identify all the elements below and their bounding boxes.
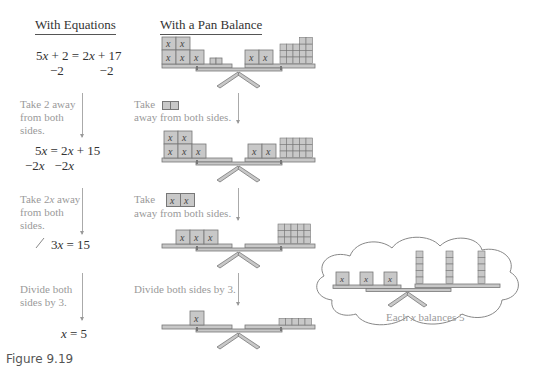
svg-text:x: x xyxy=(167,146,173,157)
balance-step-2: xx xxx xx xyxy=(162,131,315,182)
svg-text:x: x xyxy=(179,52,185,63)
svg-text:x: x xyxy=(193,232,199,243)
svg-text:x: x xyxy=(251,146,257,157)
svg-text:x: x xyxy=(387,274,392,284)
svg-text:x: x xyxy=(165,52,171,63)
figure-label: Figure 9.19 xyxy=(6,352,73,366)
svg-text:x: x xyxy=(193,313,199,324)
balance-step-1: xx xxx xx xyxy=(162,37,315,88)
svg-text:x: x xyxy=(265,146,271,157)
svg-text:x: x xyxy=(179,38,185,49)
balance-step-3: xxx xyxy=(162,224,315,268)
svg-text:x: x xyxy=(207,232,213,243)
svg-text:x: x xyxy=(195,146,201,157)
svg-text:x: x xyxy=(181,132,187,143)
svg-text:x: x xyxy=(167,132,173,143)
svg-text:x: x xyxy=(181,146,187,157)
svg-text:x: x xyxy=(363,274,368,284)
svg-text:x: x xyxy=(248,52,254,63)
svg-text:x: x xyxy=(193,52,199,63)
balance-step-4: x xyxy=(162,311,315,349)
svg-text:x: x xyxy=(262,52,268,63)
svg-text:x: x xyxy=(179,232,185,243)
svg-text:x: x xyxy=(339,274,344,284)
svg-text:x: x xyxy=(165,38,171,49)
cloud-caption: Each x balances 5 xyxy=(386,311,465,324)
